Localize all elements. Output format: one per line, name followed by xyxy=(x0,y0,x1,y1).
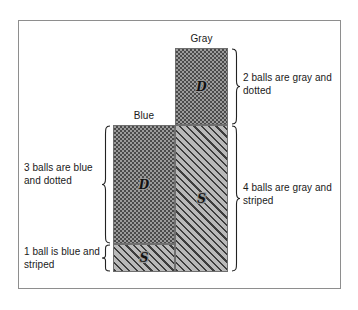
block-glyph-gray-dotted: D xyxy=(176,80,227,94)
brace-blue-dotted xyxy=(101,125,111,244)
note-gray-dotted: 2 balls are gray and dotted xyxy=(243,71,335,97)
brace-gray-striped xyxy=(231,125,241,272)
block-glyph-gray-striped: S xyxy=(176,192,227,206)
figure-canvas: Blue Gray D S D S 3 balls are blue and xyxy=(0,0,358,310)
block-blue-striped: S xyxy=(113,244,175,272)
note-blue-striped: 1 ball is blue and striped xyxy=(24,245,100,271)
column-title-blue: Blue xyxy=(113,110,175,121)
block-glyph-blue-striped: S xyxy=(114,251,174,265)
column-title-gray: Gray xyxy=(175,33,228,44)
note-gray-striped: 4 balls are gray and striped xyxy=(243,181,335,207)
brace-gray-dotted xyxy=(231,48,241,125)
block-glyph-blue-dotted: D xyxy=(114,178,174,192)
block-gray-dotted: D xyxy=(175,48,228,125)
block-gray-striped: S xyxy=(175,125,228,272)
brace-blue-striped xyxy=(101,244,111,272)
note-blue-dotted: 3 balls are blue and dotted xyxy=(24,161,100,187)
block-blue-dotted: D xyxy=(113,125,175,244)
